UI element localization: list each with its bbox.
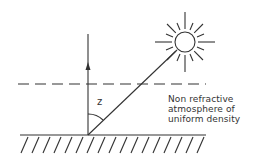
diagram-svg — [0, 0, 256, 167]
diagram-canvas: z Non refractive atmosphere of uniform d… — [0, 0, 256, 167]
zenith-arrowhead-icon — [86, 62, 91, 70]
ground-hatching — [21, 137, 204, 153]
caption-line: Non refractive — [168, 94, 256, 104]
caption-line: uniform density — [168, 114, 256, 124]
sun-ray-line — [88, 50, 177, 135]
caption-line: atmosphere of — [168, 104, 256, 114]
atmosphere-caption: Non refractive atmosphere of uniform den… — [168, 94, 256, 124]
zenith-angle-label: z — [97, 97, 102, 107]
zenith-angle-arc — [88, 114, 103, 120]
